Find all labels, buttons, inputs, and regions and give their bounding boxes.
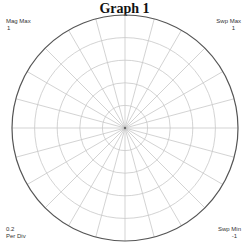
- radial-spoke: [16, 99, 125, 128]
- radial-spoke: [27, 72, 125, 129]
- radial-spoke: [125, 99, 234, 128]
- center-point: [124, 127, 126, 129]
- radial-spoke: [125, 128, 182, 226]
- radial-spoke: [125, 72, 223, 129]
- radial-spoke: [125, 128, 223, 185]
- radial-spoke: [16, 128, 125, 157]
- radial-spoke: [125, 128, 234, 157]
- radial-spoke: [45, 128, 125, 208]
- radial-spoke: [27, 128, 125, 185]
- polar-plot: [0, 0, 249, 250]
- radial-spoke: [96, 128, 125, 237]
- radial-spoke: [45, 48, 125, 128]
- radial-spoke: [125, 128, 154, 237]
- radial-spoke: [125, 30, 182, 128]
- radial-spoke: [96, 19, 125, 128]
- radial-spoke: [69, 128, 126, 226]
- radial-spoke: [125, 128, 205, 208]
- radial-spoke: [125, 48, 205, 128]
- radial-spoke: [125, 19, 154, 128]
- radial-spoke: [69, 30, 126, 128]
